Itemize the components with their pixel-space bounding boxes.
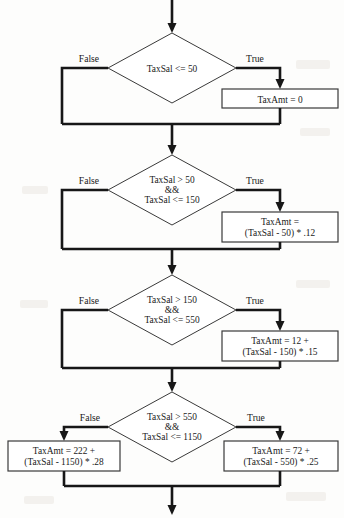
process-4-right-line-1: TaxAmt = 72 + — [252, 446, 310, 456]
branch-label-false-3: False — [79, 295, 99, 306]
merge-arrow-3 — [168, 368, 177, 392]
false-branch-3 — [62, 310, 108, 368]
branch-label-false-1: False — [79, 53, 99, 64]
decision-4-line-3: TaxSal <= 1150 — [142, 432, 202, 442]
merge-arrow-2 — [168, 249, 177, 275]
decision-2-line-2: && — [165, 185, 180, 195]
decision-4-line-2: && — [165, 422, 180, 432]
decision-3-line-3: TaxSal <= 550 — [144, 315, 200, 325]
process-3-line-2: (TaxSal - 150) * .15 — [242, 347, 317, 358]
process-4-left-line-2: (TaxSal - 1150) * .28 — [24, 457, 104, 468]
false-branch-2 — [62, 190, 108, 249]
merge-arrow-1 — [168, 124, 177, 155]
branch-label-true-1: True — [246, 53, 264, 64]
exit-arrow — [168, 486, 177, 515]
true-branch-2 — [236, 190, 285, 212]
decision-3-line-2: && — [165, 305, 180, 315]
process-1-line-1: TaxAmt = 0 — [257, 95, 303, 105]
branch-label-true-3: True — [246, 295, 264, 306]
decision-2-line-3: TaxSal <= 150 — [144, 195, 200, 205]
process-4-right-line-2: (TaxSal - 550) * .25 — [243, 457, 318, 468]
decision-4-line-1: TaxSal > 550 — [147, 412, 197, 422]
decision-2-line-1: TaxSal > 50 — [149, 175, 195, 185]
true-branch-4 — [236, 427, 285, 441]
process-3-line-1: TaxAmt = 12 + — [251, 336, 309, 346]
process-4-left-line-1: TaxAmt = 222 + — [33, 446, 95, 456]
true-branch-3 — [236, 310, 285, 331]
flowchart-canvas: TaxSal <= 50 True TaxAmt = 0 False TaxSa… — [0, 0, 344, 518]
entry-arrow — [168, 0, 177, 33]
false-branch-4 — [60, 427, 109, 441]
branch-label-false-2: False — [79, 175, 99, 186]
process-2-line-2: (TaxSal - 50) * .12 — [245, 228, 316, 239]
branch-label-true-2: True — [246, 175, 264, 186]
false-branch-1 — [62, 68, 108, 124]
process-2-line-1: TaxAmt = — [261, 217, 299, 227]
branch-label-true-4: True — [247, 412, 265, 423]
decision-3-line-1: TaxSal > 150 — [147, 295, 197, 305]
true-branch-1 — [236, 68, 285, 89]
decision-1-line-1: TaxSal <= 50 — [147, 64, 198, 74]
flowchart-svg: TaxSal <= 50 True TaxAmt = 0 False TaxSa… — [0, 0, 344, 518]
branch-label-false-4: False — [80, 412, 100, 423]
